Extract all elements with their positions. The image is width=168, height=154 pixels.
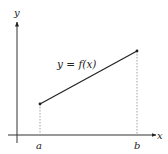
tick-label-a: a	[36, 140, 42, 151]
y-axis-label: y	[13, 7, 20, 18]
endpoint-a	[39, 103, 42, 106]
endpoint-b	[136, 50, 139, 53]
function-graph-diagram: y x y = f(x) a b	[0, 0, 168, 154]
tick-label-b: b	[134, 140, 140, 151]
x-axis-label: x	[157, 130, 163, 141]
function-label: y = f(x)	[56, 58, 96, 70]
